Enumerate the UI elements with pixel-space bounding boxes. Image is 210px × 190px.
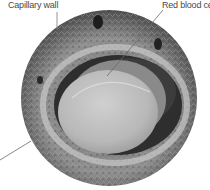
capillary-wall-label: Capillary wall bbox=[8, 0, 58, 10]
capillary-cross-section bbox=[20, 10, 200, 190]
red-blood-cell-label: Red blood cell bbox=[162, 0, 210, 10]
lower-leader-line bbox=[0, 141, 31, 160]
micrograph-figure bbox=[0, 0, 210, 190]
